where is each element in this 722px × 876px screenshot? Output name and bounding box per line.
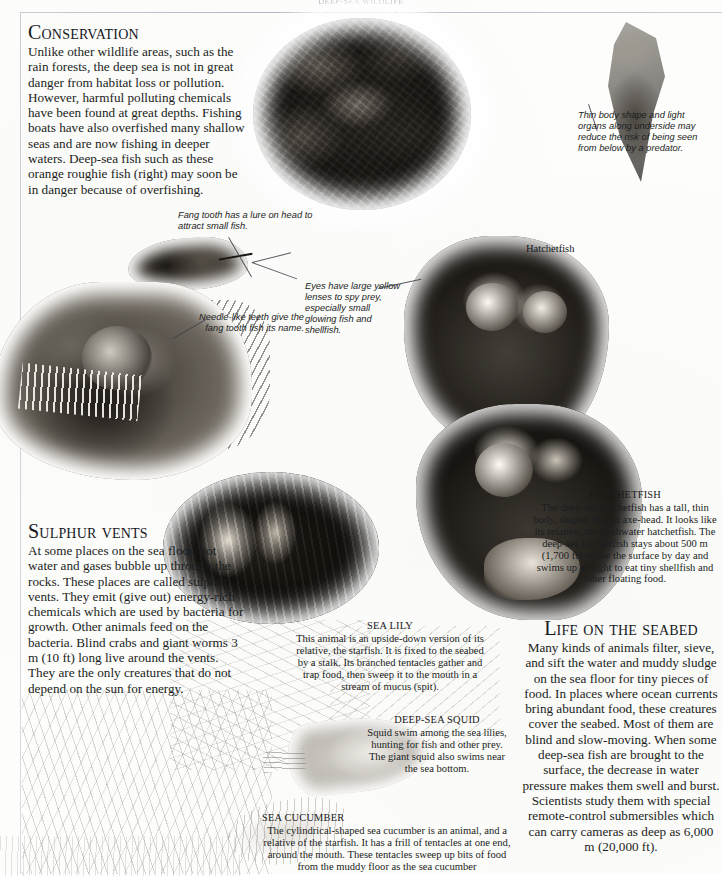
header-rule bbox=[20, 12, 722, 13]
conservation-section: Conservation Unlike other wildlife areas… bbox=[28, 22, 246, 197]
deep-sea-squid-heading: DEEP-SEA SQUID bbox=[366, 714, 508, 726]
hatchetfish-section: HATCHETFISH The deep-sea hatchetfish has… bbox=[530, 489, 720, 585]
leader-line-fang-lure bbox=[228, 237, 252, 277]
hatchetfish-middle-illustration bbox=[404, 236, 609, 448]
sulphur-vents-body: At some places on the sea floor, hot wat… bbox=[28, 543, 244, 696]
deep-sea-squid-section: DEEP-SEA SQUID Squid swim among the sea … bbox=[366, 714, 508, 775]
annotation-needle-teeth: Needle-like teeth give the fang tooth fi… bbox=[194, 312, 304, 334]
sea-lily-section: SEA LILY This animal is an upside-down v… bbox=[292, 620, 488, 693]
hatchetfish-top-illustration bbox=[548, 22, 698, 182]
life-on-the-seabed-heading: Life on the seabed bbox=[522, 618, 720, 639]
annotation-eyes: Eyes have large yellow lenses to spy pre… bbox=[305, 281, 401, 336]
sea-lily-illustration-lower bbox=[22, 690, 272, 874]
orange-roughie-vignette bbox=[243, 8, 481, 220]
fangtooth-tail-fins bbox=[0, 330, 110, 440]
hatchetfish-body: The deep-sea hatchetfish has a tall, thi… bbox=[530, 502, 720, 585]
conservation-body: Unlike other wildlife areas, such as the… bbox=[28, 44, 246, 197]
leader-line-fang-lure-3 bbox=[252, 252, 291, 263]
life-on-the-seabed-body: Many kinds of animals filter, sieve, and… bbox=[522, 640, 720, 854]
sea-lily-body: This animal is an upside-down version of… bbox=[292, 633, 488, 693]
left-margin-rule bbox=[20, 12, 21, 874]
life-on-the-seabed-section: Life on the seabed Many kinds of animals… bbox=[522, 618, 720, 854]
sea-lily-heading: SEA LILY bbox=[292, 620, 488, 632]
sea-cucumber-body: The cylindrical-shaped sea cucumber is a… bbox=[262, 825, 512, 873]
orange-roughie-photo bbox=[253, 18, 471, 210]
leader-line-fang-lure-2 bbox=[252, 262, 297, 279]
annotation-thin-body: Thin body shape and light organs along u… bbox=[578, 110, 706, 154]
conservation-heading: Conservation bbox=[28, 22, 246, 43]
sea-cucumber-section: SEA CUCUMBER The cylindrical-shaped sea … bbox=[262, 812, 512, 873]
hatchetfish-heading: HATCHETFISH bbox=[530, 489, 720, 501]
sea-cucumber-heading: SEA CUCUMBER bbox=[262, 812, 512, 824]
seabed-floor-texture bbox=[0, 836, 240, 876]
deep-sea-squid-body: Squid swim among the sea lilies, hunting… bbox=[366, 727, 508, 775]
annotation-fang-lure: Fang tooth has a lure on head to attract… bbox=[178, 210, 328, 232]
hatchetfish-label: Hatchetfish bbox=[526, 243, 574, 254]
running-head: DEEP-SEA WILDLIFE bbox=[0, 0, 722, 6]
sulphur-vents-section: Sulphur vents At some places on the sea … bbox=[28, 521, 244, 696]
sulphur-vents-heading: Sulphur vents bbox=[28, 521, 244, 542]
